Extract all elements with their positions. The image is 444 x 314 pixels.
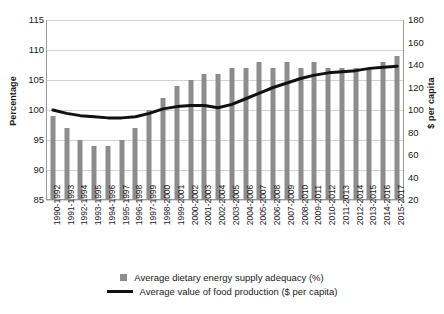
legend-item-line: Average value of food production ($ per …	[107, 286, 338, 297]
x-axis-tick: 2009-2011	[308, 203, 322, 265]
y-axis-left-tick: 100	[18, 105, 44, 115]
x-axis-tick: 2014-2016	[376, 203, 390, 265]
y-axis-right-ticks: 20406080100120140160180	[408, 0, 434, 314]
plot-area	[46, 20, 404, 200]
x-axis-tick: 2008-2010	[294, 203, 308, 265]
x-axis-tick: 1999-2001	[170, 203, 184, 265]
y-axis-left-ticks: 859095100105110115	[18, 0, 44, 314]
y-axis-left-tick: 105	[18, 75, 44, 85]
y-axis-right-tick: 40	[408, 173, 434, 183]
x-axis-tick: 1997-1999	[142, 203, 156, 265]
x-axis-tick: 1991-1993	[60, 203, 74, 265]
y-axis-right-tick: 80	[408, 128, 434, 138]
y-axis-right-tick: 60	[408, 150, 434, 160]
y-axis-right-tick: 100	[408, 105, 434, 115]
x-axis-tick: 2005-2007	[252, 203, 266, 265]
line-series	[46, 20, 404, 200]
x-axis-tick: 1994-1996	[101, 203, 115, 265]
x-axis-tick: 1996-1998	[129, 203, 143, 265]
x-axis-tick: 2006-2008	[266, 203, 280, 265]
x-axis-tick: 2007-2009	[280, 203, 294, 265]
x-axis-tick: 1990-1992	[46, 203, 60, 265]
x-axis-labels: 1990-19921991-19931992-19941993-19951994…	[46, 203, 404, 265]
y-axis-right-tick: 160	[408, 38, 434, 48]
legend-item-bar: Average dietary energy supply adequacy (…	[120, 272, 323, 283]
chart-container: Percentage $ per capita 8590951001051101…	[0, 0, 444, 314]
x-axis-tick: 1993-1995	[87, 203, 101, 265]
y-axis-left-title: Percentage	[8, 66, 18, 136]
x-axis-tick: 2000-2002	[184, 203, 198, 265]
y-axis-left-tick: 85	[18, 195, 44, 205]
y-axis-left-tick: 95	[18, 135, 44, 145]
y-axis-left-tick: 110	[18, 45, 44, 55]
legend-bar-label: Average dietary energy supply adequacy (…	[134, 272, 323, 283]
x-axis-tick-label: 2015-2017	[397, 185, 406, 226]
x-axis-tick: 2002-2004	[211, 203, 225, 265]
x-axis-tick: 1992-1994	[74, 203, 88, 265]
legend-line-swatch-icon	[107, 290, 133, 293]
x-axis-tick: 1998-2000	[156, 203, 170, 265]
y-axis-right-tick: 140	[408, 60, 434, 70]
y-axis-left-tick: 90	[18, 165, 44, 175]
y-axis-left-tick: 115	[18, 15, 44, 25]
x-axis-tick: 2001-2003	[197, 203, 211, 265]
x-axis-tick: 1995-1997	[115, 203, 129, 265]
x-axis-tick: 2013-2015	[363, 203, 377, 265]
x-axis-tick: 2004-2006	[239, 203, 253, 265]
line-series-path	[53, 66, 397, 118]
y-axis-right-tick: 20	[408, 195, 434, 205]
x-axis-tick: 2015-2017	[390, 203, 404, 265]
x-axis-tick: 2011-2013	[335, 203, 349, 265]
x-axis-tick: 2010-2012	[321, 203, 335, 265]
x-axis-tick: 2012-2014	[349, 203, 363, 265]
x-axis-tick: 2003-2005	[225, 203, 239, 265]
legend-bar-swatch-icon	[120, 274, 127, 281]
y-axis-right-tick: 120	[408, 83, 434, 93]
legend-line-label: Average value of food production ($ per …	[140, 286, 338, 297]
y-axis-right-tick: 180	[408, 15, 434, 25]
legend: Average dietary energy supply adequacy (…	[0, 272, 444, 297]
